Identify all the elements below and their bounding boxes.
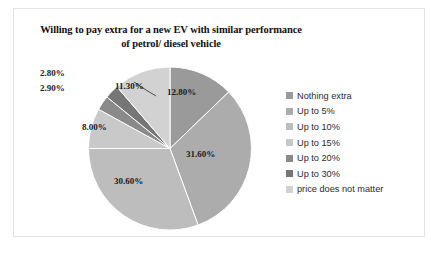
- legend-item[interactable]: Up to 15%: [286, 135, 436, 151]
- pie-value-label: 12.80%: [167, 87, 196, 97]
- legend-swatch-icon: [286, 139, 293, 146]
- legend-swatch-icon: [286, 92, 293, 99]
- legend-item-label: price does not matter: [297, 184, 383, 194]
- legend-item-label: Up to 30%: [297, 169, 340, 179]
- legend-item-label: Up to 15%: [297, 138, 340, 148]
- legend-item[interactable]: Nothing extra: [286, 88, 436, 104]
- legend-item-label: Up to 20%: [297, 153, 340, 163]
- pie-outside-label: 2.80%: [40, 68, 65, 78]
- pie-value-label: 11.30%: [115, 81, 144, 91]
- legend-swatch-icon: [286, 123, 293, 130]
- legend-item[interactable]: Up to 20%: [286, 150, 436, 166]
- pie-chart: 12.80%31.60%30.60%8.00%11.30% 2.80%2.90%: [74, 66, 264, 231]
- chart-frame: Willing to pay extra for a new EV with s…: [13, 8, 425, 237]
- legend-item-label: Nothing extra: [297, 91, 352, 101]
- legend-item[interactable]: Up to 10%: [286, 119, 436, 135]
- legend-swatch-icon: [286, 108, 293, 115]
- legend-item-label: Up to 10%: [297, 122, 340, 132]
- pie-value-label: 30.60%: [114, 176, 143, 186]
- pie-value-label: 31.60%: [186, 149, 215, 159]
- legend-item[interactable]: Up to 5%: [286, 104, 436, 120]
- legend-item[interactable]: Up to 30%: [286, 166, 436, 182]
- chart-screenshot: Willing to pay extra for a new EV with s…: [0, 0, 442, 259]
- chart-legend: Nothing extraUp to 5%Up to 10%Up to 15%U…: [286, 88, 436, 197]
- chart-title-line-2: petrol/ diesel vehicle: [132, 38, 221, 49]
- pie-value-label: 8.00%: [82, 122, 107, 132]
- pie-outside-label: 2.90%: [40, 83, 65, 93]
- chart-title: Willing to pay extra for a new EV with s…: [40, 23, 302, 50]
- legend-swatch-icon: [286, 186, 293, 193]
- legend-swatch-icon: [286, 155, 293, 162]
- legend-item-label: Up to 5%: [297, 106, 335, 116]
- legend-item[interactable]: price does not matter: [286, 182, 436, 198]
- legend-swatch-icon: [286, 170, 293, 177]
